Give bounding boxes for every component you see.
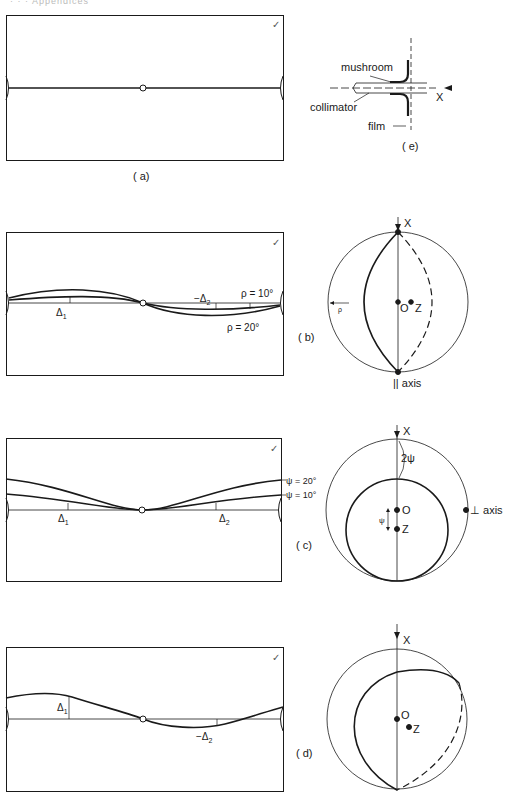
panel-label-d: ( d) [296,747,313,759]
panel-label-a: ( a) [133,170,150,182]
panel-d-stereogram [327,624,467,791]
panel-a-frame [6,16,284,161]
label-delta2-d: −Δ2 [196,731,213,744]
label-collimator: collimator [310,101,357,113]
panel-c-stereogram [326,425,469,581]
check-mark-b: ✓ [272,237,280,248]
panel-label-b: ( b) [298,331,315,343]
label-delta1-d: Δ1 [57,702,68,715]
panel-b-stereogram [328,217,468,375]
panel-d-frame [6,648,284,792]
label-psi-10: ψ = 10° [286,490,317,500]
label-z-d: Z [413,723,420,735]
label-x-b: X [404,217,412,229]
label-delta2-c: Δ2 [219,513,230,526]
panel-b-frame [6,233,284,376]
label-o-d: O [401,709,410,721]
label-z-c: Z [402,523,409,535]
label-perp-axis: ⊥ axis [470,504,503,516]
label-two-psi: 2ψ [401,452,415,464]
check-mark-c: ✓ [270,443,278,454]
check-mark-a: ✓ [272,19,280,30]
label-rho-20: ρ = 20° [227,322,259,333]
figure-canvas: ✓ ✓ ✓ ✓ ( a) ( b) ( c) ( d) ( e) mushroo… [0,0,508,796]
label-z-b: Z [415,302,422,314]
label-o-b: O [400,302,409,314]
panel-c-frame [6,439,286,582]
label-delta1-c: Δ1 [58,513,69,526]
label-rho-b: ρ [338,306,342,314]
label-mushroom: mushroom [341,61,393,73]
panel-label-c: ( c) [296,539,312,551]
label-x-d: X [403,634,411,646]
label-film: film [368,120,385,132]
label-x-c: X [403,425,411,437]
panel-e-diagram [330,38,452,130]
label-psi-20: ψ = 20° [286,476,317,486]
label-o-c: O [402,504,411,516]
label-delta1-b: Δ1 [56,307,67,320]
label-rho-10: ρ = 10° [241,288,273,299]
label-parallel-axis: || axis [393,377,422,389]
label-psi-c: ψ [379,516,385,525]
check-mark-d: ✓ [272,652,280,663]
label-delta2-b: −Δ2 [194,293,211,306]
panel-label-e: ( e) [402,140,419,152]
label-x-axis-e: X [436,91,444,103]
